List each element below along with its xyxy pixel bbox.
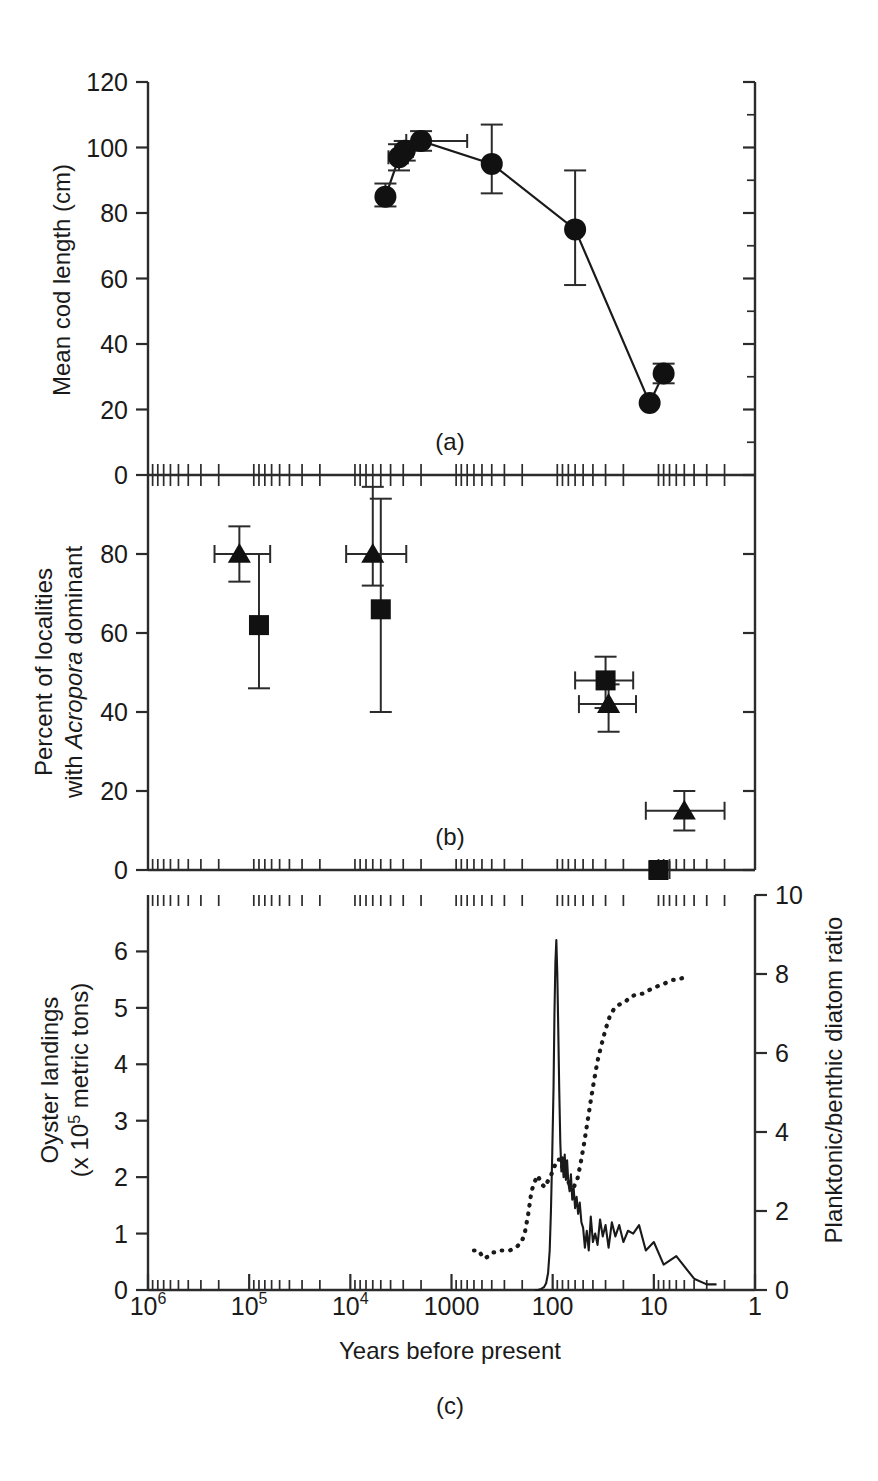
panel-c-data [474, 940, 717, 1290]
yb-italic: Acropora [60, 651, 87, 750]
panel-c-oyster-landings-curve [535, 940, 717, 1290]
panel-b-yticklabels: 020406080 [100, 540, 128, 884]
panel-a-label: (a) [435, 428, 464, 455]
panel-c-y-tick-label: 1 [114, 1220, 128, 1248]
panel-b-y-axis-title-line2: with Acropora dominant [60, 546, 87, 799]
x-tick-label: 106 [130, 1290, 167, 1320]
panel-c-xticks [148, 1274, 755, 1290]
panel-c-y2-tick-label: 8 [775, 960, 789, 988]
panel-c-y2ticklabels: 0246810 [775, 881, 803, 1304]
x-axis-tick-labels: 1061051041000100101 [130, 1290, 762, 1320]
panel-c-label: (c) [436, 1392, 464, 1419]
panel-a-data-point [374, 186, 396, 208]
panel-a-y-tick-label: 60 [100, 265, 128, 293]
panel-c-y-tick-label: 3 [114, 1107, 128, 1135]
panel-c-y-tick-label: 6 [114, 937, 128, 965]
panel-c-y2-axis-title: Planktonic/benthic diatom ratio [820, 917, 847, 1244]
yb-pre: with [60, 749, 87, 799]
panel-c-axes [136, 895, 767, 1290]
panel-c-y-axis-title-line1: Oyster landings [36, 997, 63, 1164]
yc-post: metric tons) [66, 983, 93, 1115]
yc-pre: (x 10 [66, 1124, 93, 1177]
panel-b-data-point-square [596, 670, 616, 690]
panel-b-y-tick-label: 60 [100, 619, 128, 647]
panel-a-data-point [639, 392, 661, 414]
panel-b-label: (b) [435, 823, 464, 850]
panel-a-y-tick-label: 20 [100, 396, 128, 424]
panel-c-y-tick-label: 0 [114, 1276, 128, 1304]
panel-a-data-point [653, 362, 675, 384]
panel-b: 020406080 Percent of localities with Acr… [30, 475, 755, 884]
panel-b-y-axis-title-line1: Percent of localities [30, 568, 57, 776]
panel-a-y-tick-label: 80 [100, 199, 128, 227]
x-tick-label: 105 [231, 1290, 268, 1320]
panel-a-data-point [481, 153, 503, 175]
multi-panel-figure: 020406080100120 Mean cod length (cm) (a)… [0, 0, 878, 1481]
x-tick-label: 1000 [424, 1292, 480, 1320]
panel-b-data-point-square [648, 860, 668, 880]
panel-c-y2-tick-label: 0 [775, 1276, 789, 1304]
x-tick-label: 10 [640, 1292, 668, 1320]
panel-b-data [215, 487, 725, 880]
panel-a-series-line [385, 141, 663, 403]
panel-b-y-tick-label: 40 [100, 698, 128, 726]
panel-c-y2-tick-label: 10 [775, 881, 803, 909]
x-tick-label: 100 [532, 1292, 574, 1320]
panel-b-y-tick-label: 0 [114, 856, 128, 884]
yb-post: dominant [60, 546, 87, 652]
x-axis-title: Years before present [339, 1337, 561, 1364]
panel-b-data-point-triangle [597, 693, 620, 713]
panel-c-yticklabels: 0123456 [114, 937, 128, 1304]
panel-c-y-tick-label: 2 [114, 1163, 128, 1191]
panel-a: 020406080100120 Mean cod length (cm) (a) [48, 68, 755, 489]
panel-c-y-tick-label: 5 [114, 994, 128, 1022]
x-tick-label: 104 [332, 1290, 369, 1320]
panel-a-data-point [564, 218, 586, 240]
figure-container: 020406080100120 Mean cod length (cm) (a)… [0, 0, 878, 1481]
yc-sup: 5 [66, 1115, 83, 1124]
panel-a-yticklabels: 020406080100120 [86, 68, 128, 489]
panel-a-data-point [410, 130, 432, 152]
panel-b-data-point-square [371, 599, 391, 619]
panel-c-y2-tick-label: 6 [775, 1039, 789, 1067]
panel-a-y-tick-label: 120 [86, 68, 128, 96]
panel-a-data [374, 125, 674, 414]
panel-a-y-tick-label: 0 [114, 461, 128, 489]
panel-a-y-axis-title: Mean cod length (cm) [48, 164, 75, 396]
panel-c-y-tick-label: 4 [114, 1050, 128, 1078]
panel-b-y-tick-label: 80 [100, 540, 128, 568]
panel-b-y-tick-label: 20 [100, 777, 128, 805]
panel-c-y2-tick-label: 2 [775, 1197, 789, 1225]
panel-c-y-axis-title-line2: (x 105 metric tons) [66, 983, 93, 1177]
panel-c-diatom-ratio-curve [474, 978, 683, 1258]
panel-c-y2-tick-label: 4 [775, 1118, 789, 1146]
panel-a-y-tick-label: 40 [100, 330, 128, 358]
panel-b-data-point-triangle [228, 543, 251, 563]
panel-a-y-tick-label: 100 [86, 134, 128, 162]
panel-b-data-point-triangle [673, 800, 696, 820]
panel-b-data-point-square [249, 615, 269, 635]
x-tick-label: 1 [748, 1292, 762, 1320]
